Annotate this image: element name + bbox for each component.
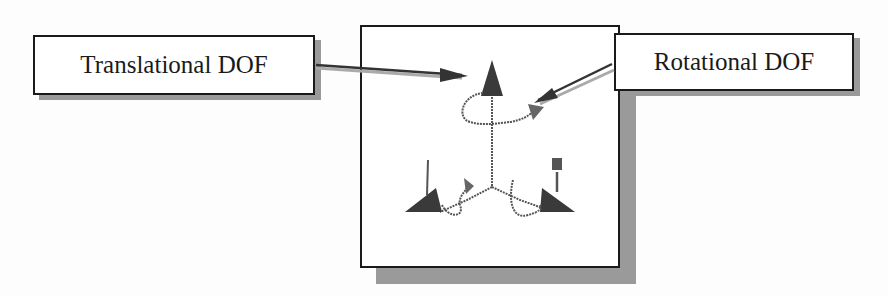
rotational-leader-arrow-icon — [534, 64, 614, 104]
translational-cone-right-icon — [540, 158, 575, 212]
translational-leader-arrow-icon — [316, 65, 468, 82]
rotational-loop-left-icon — [442, 178, 474, 215]
translational-cone-left-icon — [405, 160, 442, 212]
translational-cone-top-icon — [481, 60, 503, 96]
triad-diagram — [0, 0, 888, 296]
rotational-loop-top-icon — [462, 93, 544, 124]
